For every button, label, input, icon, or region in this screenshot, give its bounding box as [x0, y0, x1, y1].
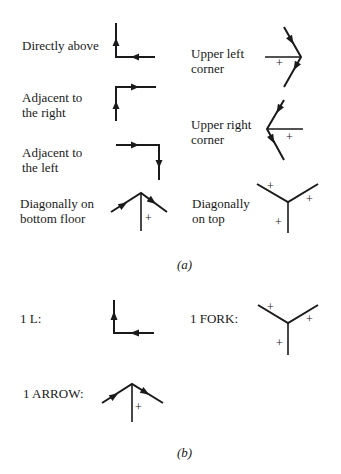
junction-diagrams: + + + + + + + + + [0, 0, 341, 474]
plus-mark: + [276, 56, 283, 70]
plus-mark: + [306, 312, 313, 326]
junction-1-arrow: + [102, 384, 163, 422]
arrow-left-icon [131, 54, 139, 61]
plus-mark: + [275, 215, 282, 229]
junction-directly-above [113, 23, 156, 61]
arrow-left-icon [130, 330, 139, 337]
arrow-right-icon [131, 142, 139, 149]
arrow-up-icon [113, 101, 120, 109]
junction-adjacent-left [116, 142, 163, 181]
plus-mark: + [276, 336, 283, 350]
arrow-right-icon [131, 84, 139, 91]
arrow-up-icon [113, 38, 120, 46]
plus-mark: + [306, 192, 313, 206]
junction-adjacent-right [113, 84, 157, 122]
junction-diagonal-on-top: + + + [257, 179, 318, 233]
arrow-down-icon [156, 160, 163, 168]
arrow-icon [140, 387, 151, 398]
arrow-up-icon [111, 311, 118, 320]
junction-upper-right-corner: + [267, 100, 303, 160]
junction-1-l [111, 300, 155, 337]
junction-diagonal-bottom-floor: + [111, 193, 167, 231]
junction-upper-left-corner: + [265, 27, 301, 87]
plus-mark: + [135, 400, 142, 414]
plus-mark: + [267, 300, 274, 314]
arrow-icon [290, 61, 301, 72]
plus-mark: + [145, 211, 152, 225]
plus-mark: + [286, 130, 293, 144]
plus-mark: + [267, 179, 274, 193]
junction-1-fork: + + + [258, 300, 318, 355]
